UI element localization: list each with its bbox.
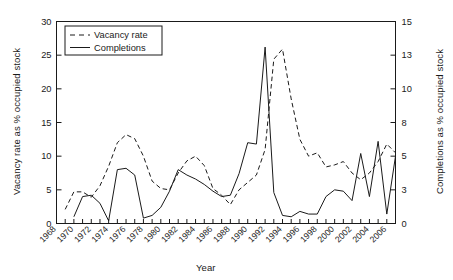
x-tick-label: 1982 bbox=[159, 224, 180, 245]
data-series-group bbox=[65, 47, 395, 221]
chart-plot-area: 1968197019721974197619781980198219841986… bbox=[0, 0, 453, 280]
y-tick-label-left: 10 bbox=[41, 151, 51, 161]
y-tick-label-right: 8 bbox=[402, 118, 407, 128]
series-line-completions bbox=[74, 47, 396, 221]
y-tick-label-right: 5 bbox=[402, 151, 407, 161]
x-tick-label: 1972 bbox=[72, 224, 93, 245]
legend-label-completions: Completions bbox=[94, 43, 146, 53]
y-tick-label-left: 30 bbox=[41, 17, 51, 27]
y-tick-label-right: 0 bbox=[402, 219, 407, 229]
x-tick-label: 1994 bbox=[263, 224, 284, 245]
x-tick-label: 1984 bbox=[176, 224, 197, 245]
x-tick-label: 2000 bbox=[315, 224, 336, 245]
x-tick-label: 1996 bbox=[281, 224, 302, 245]
x-tick-label: 2002 bbox=[333, 224, 354, 245]
x-tick-label: 1998 bbox=[298, 224, 319, 245]
y-tick-label-left: 0 bbox=[46, 219, 51, 229]
y-tick-label-right: 10 bbox=[402, 84, 412, 94]
x-tick-label: 1986 bbox=[194, 224, 215, 245]
x-tick-label: 2004 bbox=[350, 224, 371, 245]
x-tick-label: 1976 bbox=[107, 224, 128, 245]
y-tick-label-left: 20 bbox=[41, 84, 51, 94]
chart-figure: Vacancy rate as % occupied stock Complet… bbox=[0, 0, 453, 280]
x-tick-label: 1978 bbox=[124, 224, 145, 245]
y-tick-label-left: 5 bbox=[46, 185, 51, 195]
y-tick-label-right: 15 bbox=[402, 17, 412, 27]
x-tick-label: 1990 bbox=[229, 224, 250, 245]
x-tick-label: 1988 bbox=[211, 224, 232, 245]
y-tick-label-left: 15 bbox=[41, 118, 51, 128]
x-tick-label: 1974 bbox=[89, 224, 110, 245]
x-tick-label: 1980 bbox=[142, 224, 163, 245]
x-tick-label: 2006 bbox=[368, 224, 389, 245]
y-tick-label-left: 25 bbox=[41, 50, 51, 60]
chart-legend: Vacancy rateCompletions bbox=[65, 26, 162, 55]
y-tick-label-right: 13 bbox=[402, 50, 412, 60]
y-tick-label-right: 3 bbox=[402, 185, 407, 195]
x-tick-label: 1970 bbox=[55, 224, 76, 245]
legend-label-vacancy-rate: Vacancy rate bbox=[94, 30, 148, 40]
x-tick-label: 1992 bbox=[246, 224, 267, 245]
